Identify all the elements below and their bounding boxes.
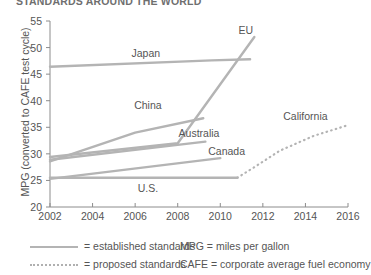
- series-label-california: California: [283, 110, 327, 122]
- series-label-japan: Japan: [131, 47, 160, 59]
- series-line-canada: [50, 158, 220, 179]
- legend-marker-established-standards: [30, 246, 78, 248]
- legend-marker-proposed-standards: [30, 264, 78, 266]
- series-line-japan: [50, 59, 250, 66]
- legend-text-proposed-standards: = proposed standards: [84, 258, 186, 270]
- series-label-australia: Australia: [179, 127, 220, 139]
- series-label-canada: Canada: [208, 145, 245, 157]
- series-label-us: U.S.: [138, 182, 158, 194]
- series-line-australia: [50, 142, 205, 160]
- series-label-china: China: [134, 99, 161, 111]
- legend-text-mpg-definition: MPG = miles per gallon: [180, 240, 289, 252]
- legend-text-cafe-definition: CAFE = corporate average fuel economy: [180, 258, 371, 270]
- series-line-california: [237, 125, 348, 178]
- series-label-eu: EU: [239, 24, 254, 36]
- legend-text-established-standards: = established standards: [84, 240, 195, 252]
